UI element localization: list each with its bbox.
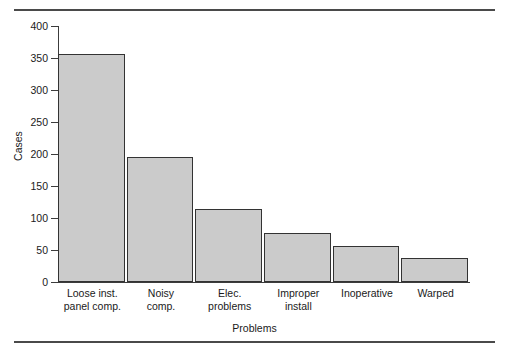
bar: [333, 246, 400, 282]
bar: [58, 54, 125, 282]
y-axis-tick-label: 0: [12, 277, 48, 288]
bar: [195, 209, 262, 282]
y-axis-tick-mark: [51, 218, 58, 219]
y-axis-tick-mark: [51, 26, 58, 27]
x-axis-category-label: Warped: [401, 287, 470, 300]
x-axis-category-label: Elec. problems: [195, 287, 264, 312]
top-horizontal-rule: [14, 9, 495, 11]
y-axis-tick-label: 100: [12, 213, 48, 224]
y-axis-tick-mark: [51, 58, 58, 59]
y-axis-tick-mark: [51, 90, 58, 91]
bar: [401, 258, 468, 282]
pareto-bar-chart-figure: 050100150200250300350400 Loose inst. pan…: [0, 0, 509, 352]
y-axis-tick-label: 50: [12, 245, 48, 256]
x-axis-category-label: Loose inst. panel comp.: [58, 287, 127, 312]
x-axis-category-label: Inoperative: [333, 287, 402, 300]
y-axis-tick-label: 150: [12, 181, 48, 192]
y-axis-tick-label: 350: [12, 53, 48, 64]
plot-area: [58, 26, 470, 282]
y-axis-tick-label: 300: [12, 85, 48, 96]
x-axis-category-label: Improper install: [264, 287, 333, 312]
y-axis-title: Cases: [12, 122, 24, 170]
y-axis-tick-label: 400: [12, 21, 48, 32]
bottom-horizontal-rule: [14, 341, 495, 343]
y-axis-tick-mark: [51, 154, 58, 155]
y-axis-tick-mark: [51, 122, 58, 123]
y-axis-tick-mark: [51, 282, 58, 283]
bar: [127, 157, 194, 282]
y-axis-tick-mark: [51, 250, 58, 251]
x-axis-title: Problems: [0, 322, 509, 334]
y-axis-tick-mark: [51, 186, 58, 187]
bar: [264, 233, 331, 282]
x-axis-category-label: Noisy comp.: [127, 287, 196, 312]
